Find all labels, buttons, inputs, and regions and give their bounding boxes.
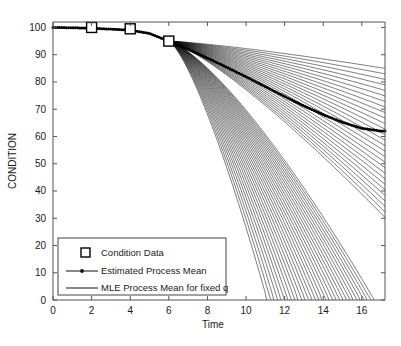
chart-figure: 0246810121416 0102030405060708090100 Tim… [0, 0, 401, 346]
y-tick-label: 0 [40, 295, 46, 306]
condition-vs-time-chart: 0246810121416 0102030405060708090100 Tim… [0, 0, 401, 346]
legend-item-estimated-process-mean: Estimated Process Mean [101, 265, 207, 276]
y-tick-label: 40 [35, 185, 47, 196]
y-axis-title: CONDITION [7, 133, 18, 189]
y-tick-label: 30 [35, 213, 47, 224]
legend-square-icon [81, 248, 90, 257]
x-tick-label: 10 [240, 305, 252, 316]
y-tick-label: 70 [35, 104, 47, 115]
x-tick-label: 0 [50, 305, 56, 316]
x-tick-label: 8 [205, 305, 211, 316]
y-tick-label: 50 [35, 158, 47, 169]
y-tick-label: 90 [35, 49, 47, 60]
y-tick-label: 60 [35, 131, 47, 142]
x-tick-label: 2 [89, 305, 95, 316]
x-axis-title: Time [202, 319, 224, 330]
x-tick-label: 14 [318, 305, 330, 316]
y-tick-label: 20 [35, 240, 47, 251]
x-tick-label: 4 [127, 305, 133, 316]
legend-dot-marker-icon [80, 269, 84, 273]
y-tick-label: 10 [35, 267, 47, 278]
x-tick-label: 16 [356, 305, 368, 316]
legend-item-condition-data: Condition Data [101, 247, 165, 258]
chart-legend: Condition Data Estimated Process Mean ML… [58, 238, 228, 295]
y-tick-label: 100 [29, 22, 46, 33]
legend-item-mle-process-mean: MLE Process Mean for fixed q [101, 282, 228, 293]
x-tick-label: 6 [166, 305, 172, 316]
x-tick-label: 12 [279, 305, 291, 316]
y-tick-label: 80 [35, 76, 47, 87]
condition-data-marker [164, 36, 174, 46]
